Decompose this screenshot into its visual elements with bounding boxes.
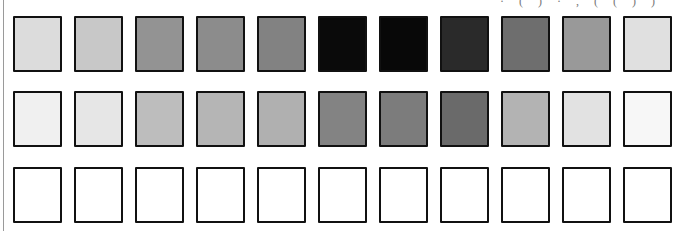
color-swatch: [135, 91, 184, 147]
color-swatch: [623, 16, 672, 72]
row-3: [13, 167, 683, 224]
color-swatch: [501, 91, 550, 147]
color-swatch: [379, 167, 428, 223]
color-swatch: [13, 91, 62, 147]
color-swatch: [318, 167, 367, 223]
color-swatch: [623, 167, 672, 223]
color-swatch: [135, 167, 184, 223]
color-swatch: [74, 91, 123, 147]
color-swatch: [440, 91, 489, 147]
color-swatch: [562, 91, 611, 147]
color-swatch: [440, 167, 489, 223]
color-swatch: [196, 16, 245, 72]
color-swatch: [379, 16, 428, 72]
color-swatch: [74, 16, 123, 72]
color-swatch: [501, 167, 550, 223]
color-swatch: [135, 16, 184, 72]
color-swatch: [13, 167, 62, 223]
color-swatch: [196, 167, 245, 223]
color-swatch: [257, 16, 306, 72]
color-swatch: [196, 91, 245, 147]
color-swatch: [257, 91, 306, 147]
color-swatch: [74, 167, 123, 223]
left-border-rule: [3, 0, 4, 231]
color-swatch: [318, 91, 367, 147]
color-swatch: [501, 16, 550, 72]
row-1: [13, 16, 683, 73]
color-swatch: [562, 167, 611, 223]
color-swatch: [318, 16, 367, 72]
color-swatch: [13, 16, 62, 72]
color-swatch: [562, 16, 611, 72]
cropped-caption-fragment: · ( ) · , ( ( ) ): [500, 0, 661, 9]
color-swatch: [623, 91, 672, 147]
color-swatch: [257, 167, 306, 223]
row-2: [13, 91, 683, 148]
color-swatch: [440, 16, 489, 72]
color-swatch: [379, 91, 428, 147]
